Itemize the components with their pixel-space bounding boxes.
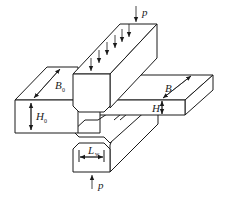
bottom-load-arrow: p — [92, 175, 104, 191]
b-label: B — [165, 82, 172, 94]
top-load-label: p — [141, 6, 148, 18]
forging-diagram: p p B 0 H 0 B H L w — [0, 0, 225, 204]
lw-label: L — [87, 144, 94, 156]
h0-subscript: 0 — [44, 118, 47, 124]
b0-label: B — [55, 79, 62, 91]
b0-subscript: 0 — [62, 87, 65, 93]
bottom-load-label: p — [97, 179, 104, 191]
lw-subscript: w — [95, 151, 100, 157]
h-label: H — [151, 102, 161, 114]
top-load-arrow: p — [136, 6, 148, 22]
